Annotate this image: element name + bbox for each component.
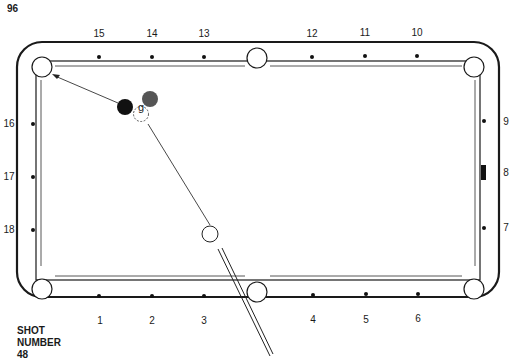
diamond-label-17: 17 xyxy=(3,171,14,182)
pool-table-diagram xyxy=(0,0,514,362)
table-cushion-line xyxy=(36,61,480,280)
diamond-label-13: 13 xyxy=(198,28,209,39)
pocket-bottom-side-icon xyxy=(247,282,267,302)
pocket-top-right-icon xyxy=(464,57,484,77)
diamond-label-8: 8 xyxy=(503,167,509,178)
side-marker xyxy=(481,165,486,180)
diamond-label-10: 10 xyxy=(411,27,422,38)
table-outer-rail xyxy=(17,42,499,297)
object-ball-1 xyxy=(117,99,133,115)
shot-label-line2: NUMBER xyxy=(17,337,61,349)
diamond-label-5: 5 xyxy=(363,314,369,325)
diamond-label-1: 1 xyxy=(97,315,103,326)
diamond-label-3: 3 xyxy=(201,315,207,326)
pocket-bottom-left-icon xyxy=(32,279,52,299)
pocket-bottom-right-icon xyxy=(464,279,484,299)
pocket-top-left-icon xyxy=(32,57,52,77)
pocket-top-side-icon xyxy=(247,48,267,68)
diamond-label-6: 6 xyxy=(415,313,421,324)
diamond-label-9: 9 xyxy=(503,116,509,127)
arrow-head-icon xyxy=(52,74,60,79)
object-ball-path xyxy=(55,76,118,103)
diamond-label-12: 12 xyxy=(306,28,317,39)
object-ball-2 xyxy=(142,91,158,107)
diamond-label-18: 18 xyxy=(3,224,14,235)
diamond-label-15: 15 xyxy=(93,28,104,39)
diamond-label-11: 11 xyxy=(360,27,370,38)
ghost-ball-label: g xyxy=(138,101,144,113)
shot-number-value: 48 xyxy=(17,349,61,361)
diamond-label-4: 4 xyxy=(310,314,316,325)
cue-ball xyxy=(202,226,218,242)
diamond-label-14: 14 xyxy=(146,28,157,39)
diamond-label-7: 7 xyxy=(503,222,509,233)
shot-label-line1: SHOT xyxy=(17,325,61,337)
diamond-label-2: 2 xyxy=(149,315,155,326)
shot-number-label: SHOT NUMBER 48 xyxy=(17,325,61,361)
diamond-label-16: 16 xyxy=(3,118,14,129)
cue-ball-path xyxy=(148,124,210,225)
